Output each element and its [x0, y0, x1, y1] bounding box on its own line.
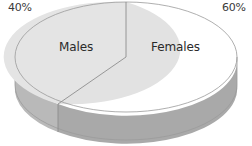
- females-slice-label: Females: [151, 40, 200, 54]
- males-slice-label: Males: [59, 40, 93, 54]
- males-percent-label: 40%: [8, 1, 32, 14]
- pie-chart-3d: [0, 0, 252, 146]
- females-percent-label: 60%: [222, 1, 246, 14]
